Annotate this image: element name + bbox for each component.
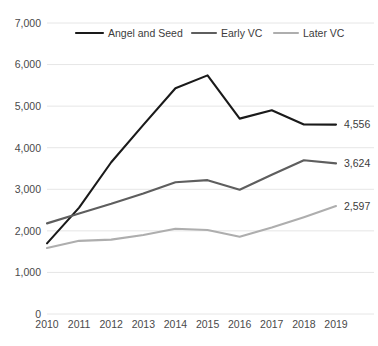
x-axis-tick-label: 2012 [100, 318, 124, 330]
x-axis-labels: 2010201120122013201420152016201720182019 [35, 318, 348, 330]
series-lines [47, 75, 336, 248]
x-axis-tick-label: 2017 [260, 318, 284, 330]
y-axis-labels: 01,0002,0003,0004,0005,0006,0007,000 [15, 17, 41, 320]
x-axis-tick-label: 2015 [196, 318, 220, 330]
y-axis-tick-label: 2,000 [15, 225, 41, 237]
chart-legend: Angel and SeedEarly VCLater VC [76, 27, 345, 39]
gridlines [47, 23, 374, 314]
end-label-angel-and-seed: 4,556 [344, 118, 370, 130]
legend-label-early-vc: Early VC [221, 27, 263, 39]
y-axis-tick-label: 5,000 [15, 100, 41, 112]
chart-canvas: 01,0002,0003,0004,0005,0006,0007,000 201… [0, 0, 378, 346]
series-line-later-vc [47, 206, 336, 248]
x-axis-tick-label: 2013 [132, 318, 156, 330]
series-line-angel-and-seed [47, 75, 336, 243]
x-axis-tick-label: 2011 [68, 318, 91, 330]
x-axis-tick-label: 2018 [292, 318, 316, 330]
y-axis-tick-label: 1,000 [15, 266, 41, 278]
line-chart: 01,0002,0003,0004,0005,0006,0007,000 201… [0, 0, 378, 346]
end-label-early-vc: 3,624 [344, 157, 370, 169]
x-axis-tick-label: 2010 [35, 318, 59, 330]
end-label-later-vc: 2,597 [344, 200, 370, 212]
y-axis-tick-label: 7,000 [15, 17, 41, 29]
y-axis-tick-label: 3,000 [15, 183, 41, 195]
x-axis-tick-label: 2014 [164, 318, 188, 330]
legend-label-angel-and-seed: Angel and Seed [108, 27, 183, 39]
series-end-labels: 4,5563,6242,597 [344, 118, 370, 211]
x-axis-tick-label: 2019 [324, 318, 348, 330]
legend-label-later-vc: Later VC [303, 27, 345, 39]
y-axis-tick-label: 4,000 [15, 142, 41, 154]
x-axis-tick-label: 2016 [228, 318, 252, 330]
y-axis-tick-label: 6,000 [15, 58, 41, 70]
